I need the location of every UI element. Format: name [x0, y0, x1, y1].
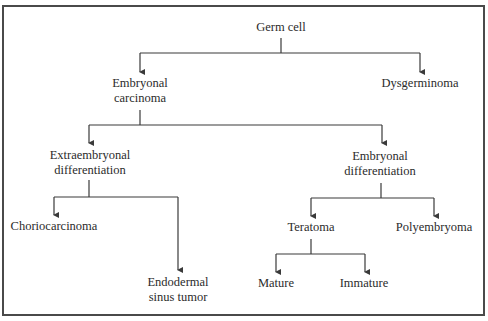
node-label: Embryonal	[344, 149, 415, 164]
node-choriocarcinoma: Choriocarcinoma	[11, 219, 98, 234]
node-dysgerminoma: Dysgerminoma	[381, 76, 458, 91]
node-label: Embryonal	[112, 76, 168, 91]
node-polyembryoma: Polyembryoma	[396, 220, 472, 235]
node-label: differentiation	[50, 163, 131, 178]
node-label: carcinoma	[112, 91, 168, 106]
node-label: Endodermal	[147, 275, 208, 290]
node-germ-cell: Germ cell	[256, 20, 306, 35]
node-immature: Immature	[340, 276, 389, 291]
node-mature: Mature	[258, 276, 294, 291]
node-embryonal-carcinoma: Embryonal carcinoma	[112, 76, 168, 106]
node-embryonal-differentiation: Embryonal differentiation	[344, 149, 415, 179]
node-endodermal-sinus-tumor: Endodermal sinus tumor	[147, 275, 208, 305]
node-label: Dysgerminoma	[381, 76, 458, 91]
node-label: Teratoma	[287, 220, 334, 235]
node-label: Extraembryonal	[50, 148, 131, 163]
node-label: Polyembryoma	[396, 220, 472, 235]
node-teratoma: Teratoma	[287, 220, 334, 235]
node-label: Immature	[340, 276, 389, 291]
node-extraembryonal-differentiation: Extraembryonal differentiation	[50, 148, 131, 178]
node-label: Mature	[258, 276, 294, 291]
node-label: Choriocarcinoma	[11, 219, 98, 234]
node-label: differentiation	[344, 164, 415, 179]
node-label: Germ cell	[256, 20, 306, 35]
node-label: sinus tumor	[147, 290, 208, 305]
